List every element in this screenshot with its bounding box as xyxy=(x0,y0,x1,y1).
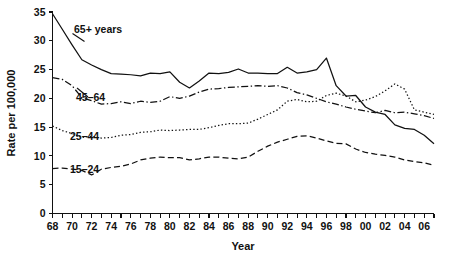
series-label-65-plus: 65+ years xyxy=(74,23,122,35)
chart-canvas: 05101520253035 6870727476788082848688909… xyxy=(0,0,451,269)
x-tick-label: 98 xyxy=(340,220,352,232)
y-tick-label: 0 xyxy=(40,207,46,219)
x-tick-label: 84 xyxy=(203,220,215,232)
x-tick-label: 96 xyxy=(321,220,333,232)
x-tick-label: 06 xyxy=(418,220,430,232)
y-axis-tick-labels: 05101520253035 xyxy=(34,6,46,220)
x-tick-label: 72 xyxy=(86,220,98,232)
x-tick-label: 04 xyxy=(399,220,411,232)
series-label-45-64: 45–64 xyxy=(76,91,105,103)
x-tick-label: 00 xyxy=(360,220,372,232)
y-tick-label: 10 xyxy=(34,150,46,162)
x-axis-ticks xyxy=(53,214,435,218)
y-tick-label: 25 xyxy=(34,63,46,75)
y-tick-label: 35 xyxy=(34,6,46,18)
x-tick-label: 88 xyxy=(242,220,254,232)
line-chart-figure: 05101520253035 6870727476788082848688909… xyxy=(0,0,451,269)
x-tick-label: 74 xyxy=(105,220,117,232)
x-tick-label: 92 xyxy=(281,220,293,232)
x-tick-label: 94 xyxy=(301,220,313,232)
x-tick-label: 76 xyxy=(125,220,137,232)
data-series-group xyxy=(53,14,435,175)
x-axis-title: Year xyxy=(231,240,255,252)
y-tick-label: 20 xyxy=(34,92,46,104)
x-tick-label: 70 xyxy=(66,220,78,232)
y-tick-label: 5 xyxy=(40,178,46,190)
x-tick-label: 02 xyxy=(379,220,391,232)
y-tick-label: 15 xyxy=(34,121,46,133)
y-axis-title: Rate per 100,000 xyxy=(5,70,17,157)
x-axis-tick-labels: 6870727476788082848688909294969800020406 xyxy=(47,220,431,232)
series-label-25-44: 25–44 xyxy=(70,130,99,142)
y-axis-ticks xyxy=(49,12,53,214)
x-tick-label: 86 xyxy=(223,220,235,232)
x-tick-label: 78 xyxy=(144,220,156,232)
series-line-15-24 xyxy=(53,136,435,175)
series-label-15-24: 15–24 xyxy=(70,163,99,175)
y-tick-label: 30 xyxy=(34,34,46,46)
series-line-45-64 xyxy=(53,78,435,119)
x-tick-label: 80 xyxy=(164,220,176,232)
x-tick-label: 90 xyxy=(262,220,274,232)
series-line-25-44 xyxy=(53,84,435,138)
x-tick-label: 82 xyxy=(184,220,196,232)
x-tick-label: 68 xyxy=(47,220,59,232)
